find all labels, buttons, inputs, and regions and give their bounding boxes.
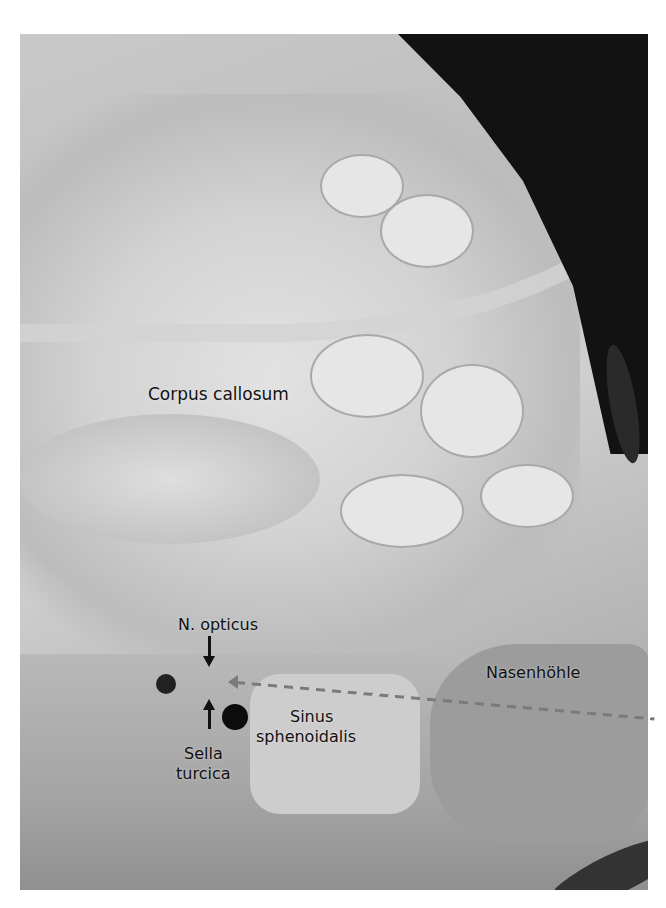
- anatomy-photo: [20, 34, 648, 890]
- arrow-shaft: [208, 709, 211, 729]
- label-n-opticus: N. opticus: [178, 616, 258, 634]
- label-sinus: Sinus: [290, 708, 333, 726]
- dashed-arrowhead-icon: [228, 675, 238, 689]
- label-sphenoidalis: sphenoidalis: [256, 728, 356, 746]
- arrow-shaft: [208, 636, 211, 658]
- sella-cavity: [222, 704, 248, 730]
- corpus-callosum-region: [20, 414, 320, 544]
- arrow-down-icon: [203, 656, 215, 667]
- label-nasenhoehle: Nasenhöhle: [486, 664, 580, 682]
- label-corpus-callosum: Corpus callosum: [148, 385, 289, 403]
- gyrus: [310, 334, 424, 418]
- optic-canal: [156, 674, 176, 694]
- label-turcica: turcica: [176, 765, 230, 783]
- gyrus: [340, 474, 464, 548]
- gyrus: [480, 464, 574, 528]
- gyrus: [420, 364, 524, 458]
- gyrus: [380, 194, 474, 268]
- label-sella: Sella: [184, 745, 223, 763]
